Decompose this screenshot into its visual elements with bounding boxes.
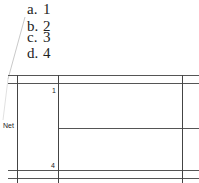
right-vertical bbox=[182, 75, 183, 183]
top-number: 1 bbox=[52, 87, 56, 94]
middle-line bbox=[58, 128, 199, 129]
bottom-number: 4 bbox=[51, 162, 55, 169]
left-vertical bbox=[17, 75, 18, 183]
second-line bbox=[8, 83, 199, 84]
center-vertical bbox=[58, 75, 59, 183]
option-a: a.1 bbox=[27, 2, 51, 17]
bottom-line bbox=[8, 178, 199, 179]
option-c: c.3 bbox=[27, 30, 51, 45]
top-line bbox=[8, 75, 199, 76]
option-d: d.4 bbox=[27, 46, 51, 61]
net-label: Net bbox=[3, 122, 14, 129]
lower-line bbox=[8, 170, 199, 171]
